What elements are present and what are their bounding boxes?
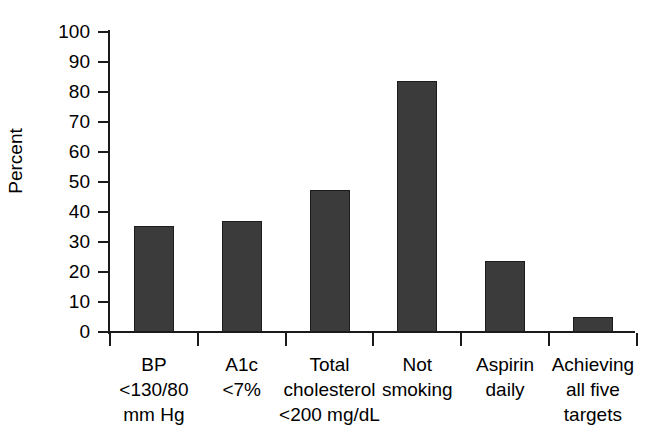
bar (573, 317, 613, 332)
y-axis-tick (98, 151, 109, 153)
bar (134, 226, 174, 332)
y-axis-tick-label: 60 (30, 142, 90, 161)
x-axis-separator (372, 333, 374, 346)
y-axis-tick-label: 50 (30, 172, 90, 191)
bar (222, 221, 262, 332)
y-axis-tick-label: 80 (30, 82, 90, 101)
bar (397, 81, 437, 332)
x-axis-separator (460, 333, 462, 346)
y-axis-tick (98, 181, 109, 183)
y-axis-tick-label: 0 (30, 322, 90, 341)
y-axis-tick (98, 271, 109, 273)
x-axis-category-label-line: <200 mg/dL (260, 402, 400, 427)
y-axis-tick (98, 121, 109, 123)
y-axis-tick-label: 10 (30, 292, 90, 311)
y-axis-tick-label: 30 (30, 232, 90, 251)
x-axis-category-label: Achievingall fivetargets (523, 352, 654, 427)
y-axis-tick (98, 91, 109, 93)
bar (485, 261, 525, 332)
x-axis-category-label-line: targets (523, 402, 654, 427)
y-axis-tick (98, 301, 109, 303)
y-axis-tick (98, 211, 109, 213)
x-axis-separator (548, 333, 550, 346)
y-axis-tick-label: 20 (30, 262, 90, 281)
y-axis-tick-label: 100 (30, 22, 90, 41)
x-axis-separator (197, 333, 199, 346)
x-axis-category-label-line: mm Hg (84, 402, 224, 427)
y-axis-tick-label: 90 (30, 52, 90, 71)
y-axis-tick-label: 70 (30, 112, 90, 131)
x-axis-category-label-line: all five (523, 377, 654, 402)
y-axis-tick (98, 61, 109, 63)
x-axis-separator (285, 333, 287, 346)
x-axis-category-label-line: Achieving (523, 352, 654, 377)
bar-chart: Percent 1009080706050403020100 BP<130/80… (0, 0, 654, 436)
y-axis-tick (98, 241, 109, 243)
y-axis-tick (98, 31, 109, 33)
bar (310, 190, 350, 332)
x-axis-separator (109, 333, 111, 346)
x-axis-separator (636, 333, 638, 346)
plot-area: 1009080706050403020100 BP<130/80mm HgA1c… (0, 0, 654, 436)
y-axis-tick-label: 40 (30, 202, 90, 221)
y-axis-tick (98, 331, 109, 333)
